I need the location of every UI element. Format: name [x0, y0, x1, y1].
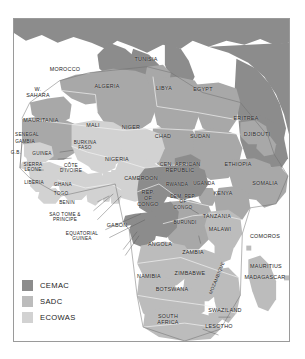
legend-item-cemac[interactable]: CEMAC: [22, 277, 117, 293]
country-mauritius-marker: [284, 275, 289, 280]
legend-label-cemac: CEMAC: [40, 281, 69, 290]
map-legend: CEMACSADCECOWAS: [22, 277, 117, 325]
country-comoros-marker: [246, 246, 251, 251]
africa-regional-blocs-map: .g-out{fill:#8c8c8c;} .g-oth{fill:#a8a8a…: [0, 0, 305, 359]
legend-label-ecowas: ECOWAS: [40, 313, 76, 322]
legend-item-sadc[interactable]: SADC: [22, 293, 117, 309]
legend-swatch-sadc: [22, 296, 33, 307]
legend-item-ecowas[interactable]: ECOWAS: [22, 309, 117, 325]
legend-swatch-ecowas: [22, 312, 33, 323]
legend-label-sadc: SADC: [40, 297, 63, 306]
legend-swatch-cemac: [22, 280, 33, 291]
